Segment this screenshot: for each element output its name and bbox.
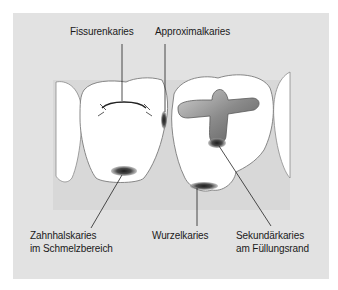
label-cervical-caries-line1: Zahnhalskaries [30, 230, 96, 242]
cervical-caries [111, 166, 137, 176]
approximal-caries [161, 111, 167, 129]
secondary-caries [208, 138, 226, 148]
label-secondary-caries-line2: am Füllungsrand [236, 243, 309, 255]
label-cervical-caries-line2: im Schmelzbereich [30, 243, 113, 255]
label-approximal-caries: Approximalkaries [155, 26, 230, 38]
root-caries [190, 182, 218, 190]
label-secondary-caries-line1: Sekundärkaries [236, 230, 304, 242]
label-fissure-caries: Fissurenkaries [70, 26, 134, 38]
label-root-caries: Wurzelkaries [152, 230, 208, 242]
